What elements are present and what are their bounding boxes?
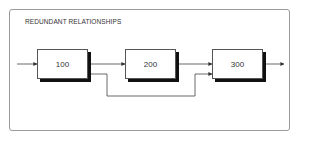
node-100: 100 [37, 49, 88, 79]
node-label: 300 [231, 60, 244, 69]
node-200: 200 [125, 49, 176, 79]
node-label: 200 [144, 60, 157, 69]
node-label: 100 [56, 60, 69, 69]
node-300: 300 [212, 49, 263, 79]
